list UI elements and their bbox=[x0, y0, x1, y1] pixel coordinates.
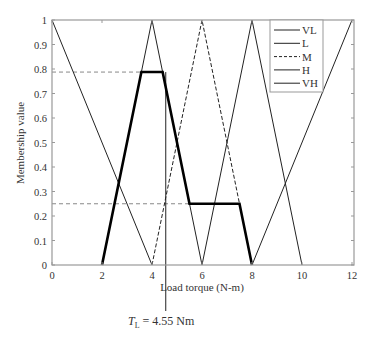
series-m bbox=[152, 20, 252, 265]
annotation-value: = 4.55 Nm bbox=[140, 314, 195, 328]
series-vl bbox=[52, 20, 152, 265]
legend-label: VH bbox=[302, 77, 318, 89]
membership-chart: 02468101200.10.20.30.40.50.60.70.80.91 V… bbox=[0, 0, 380, 338]
x-tick-label: 12 bbox=[347, 270, 358, 281]
y-tick-label: 0.1 bbox=[34, 236, 47, 247]
legend-label: VL bbox=[302, 24, 317, 36]
y-tick-label: 0.9 bbox=[34, 40, 47, 51]
legend-label: L bbox=[302, 37, 309, 49]
y-tick-label: 0.4 bbox=[34, 162, 48, 173]
x-tick-label: 2 bbox=[99, 270, 104, 281]
legend: VLLMHVH bbox=[270, 20, 323, 92]
x-tick-label: 6 bbox=[199, 270, 204, 281]
y-tick-label: 0.3 bbox=[34, 187, 47, 198]
load-torque-annotation: TL = 4.55 Nm bbox=[128, 314, 195, 330]
x-axis-label: Load torque (N-m) bbox=[160, 281, 244, 294]
legend-label: H bbox=[302, 64, 310, 76]
x-tick-label: 4 bbox=[149, 270, 155, 281]
y-tick-label: 0.6 bbox=[34, 113, 47, 124]
x-tick-label: 8 bbox=[249, 270, 254, 281]
x-tick-label: 10 bbox=[297, 270, 308, 281]
series-aggregated-output bbox=[102, 72, 252, 265]
legend-label: M bbox=[302, 51, 312, 63]
y-tick-label: 0.5 bbox=[34, 138, 47, 149]
x-tick-label: 0 bbox=[49, 270, 54, 281]
y-tick-label: 0.7 bbox=[34, 89, 47, 100]
y-tick-label: 0.2 bbox=[34, 211, 47, 222]
y-axis-label: Membership value bbox=[14, 102, 26, 184]
y-tick-label: 0.8 bbox=[34, 64, 47, 75]
y-tick-label: 1 bbox=[42, 15, 47, 26]
series-l bbox=[102, 20, 202, 265]
y-tick-label: 0 bbox=[42, 260, 47, 271]
